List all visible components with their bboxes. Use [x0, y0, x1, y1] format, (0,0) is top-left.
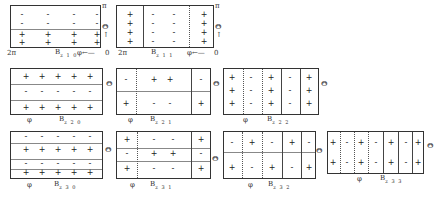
sign: -: [169, 136, 177, 144]
sign: -: [149, 38, 157, 46]
zero-label: 0: [214, 50, 218, 57]
phi-axis-label: φ: [27, 182, 32, 189]
panel-bz30: - - - - - + + + + + - - - - - + + + + +: [10, 131, 103, 179]
sign: +: [126, 20, 134, 28]
sign: +: [126, 11, 134, 19]
sign: +: [387, 159, 395, 167]
sign: +: [248, 139, 256, 147]
sign: +: [357, 159, 365, 167]
sign: -: [150, 100, 158, 108]
phi-axis-label: φ: [248, 182, 253, 189]
sign: +: [70, 73, 78, 81]
sign: -: [22, 133, 30, 141]
pi-label: π: [215, 3, 220, 10]
phi-axis-label: φ: [130, 182, 135, 189]
phi-axis-label: φ←—: [187, 50, 205, 57]
subscript: z 2 1: [155, 119, 172, 125]
sign: +: [197, 165, 205, 173]
sign: -: [38, 88, 46, 96]
sign: +: [54, 104, 62, 112]
sign: +: [70, 146, 78, 154]
sign: +: [86, 104, 94, 112]
sign: +: [166, 76, 174, 84]
subscript: z 3 0: [59, 184, 76, 190]
field-label: Bz 3 2: [268, 181, 290, 188]
sign: +: [22, 73, 30, 81]
sign: -: [70, 20, 78, 28]
sign: -: [197, 150, 205, 158]
sign: +: [200, 38, 208, 46]
nodal-line: [243, 69, 244, 114]
sign: -: [149, 11, 157, 19]
nodal-line: [11, 143, 102, 144]
sign: -: [122, 76, 130, 84]
phi-axis-label: φ: [128, 117, 133, 124]
sign: +: [267, 74, 275, 82]
theta-axis-label: Θ: [102, 23, 109, 30]
subscript: z 3 3: [385, 178, 402, 184]
sign: +: [123, 136, 131, 144]
two-pi-label: 2π: [118, 50, 127, 57]
sign: -: [54, 160, 62, 168]
panel-bz21: - + + - + - - +: [116, 68, 211, 115]
subscript: z 3 2: [273, 184, 290, 190]
sign: -: [150, 136, 158, 144]
sign: +: [305, 164, 313, 172]
sign: +: [228, 100, 236, 108]
nodal-line: [340, 132, 341, 173]
sign: +: [38, 73, 46, 81]
theta-axis-label: Θ: [427, 142, 434, 149]
field-label: Bz 3 0: [54, 181, 76, 188]
sign: -: [150, 165, 158, 173]
sign: +: [126, 29, 134, 37]
sign: +: [305, 87, 313, 95]
sign: -: [170, 29, 178, 37]
sign: -: [70, 133, 78, 141]
zero-label: 0: [105, 50, 109, 57]
theta-axis-label: Θ: [316, 147, 323, 154]
panel-bz22: + - + - + + - + - + + - + - +: [223, 68, 319, 115]
theta-axis-label: Θ: [105, 146, 112, 153]
nodal-line: [117, 91, 210, 92]
sign: -: [70, 11, 78, 19]
nodal-line: [412, 132, 413, 173]
sign: +: [123, 165, 131, 173]
sign: -: [86, 160, 94, 168]
sign: +: [305, 100, 313, 108]
phi-axis-label: φ←—: [77, 50, 95, 57]
sign: -: [170, 11, 178, 19]
field-label: Bz 2 0: [59, 116, 81, 123]
sign: -: [169, 165, 177, 173]
sign: -: [54, 88, 62, 96]
theta-axis-label: Θ: [321, 80, 328, 87]
sign: -: [402, 159, 410, 167]
theta-axis-label: Θ: [212, 155, 219, 162]
sign: -: [248, 164, 256, 172]
sign: -: [286, 87, 294, 95]
nodal-line: [281, 69, 282, 114]
nodal-line: [143, 6, 144, 47]
sign: +: [126, 38, 134, 46]
field-label: Bz 3 3: [380, 175, 402, 182]
phi-axis-label: φ: [357, 176, 362, 183]
sign: +: [200, 29, 208, 37]
nodal-line: [189, 6, 190, 47]
nodal-line: [398, 132, 399, 173]
panel-bz32: - + - + - + - + - +: [223, 131, 316, 179]
sign: +: [200, 20, 208, 28]
two-pi-label: 2π: [7, 50, 16, 57]
panel-bz33: + - + - + - + + - + - + - +: [327, 131, 424, 174]
sign: +: [38, 146, 46, 154]
sign: +: [70, 104, 78, 112]
sign: +: [197, 136, 205, 144]
sign: +: [22, 104, 30, 112]
sign: -: [288, 164, 296, 172]
sign: +: [414, 139, 422, 147]
theta-arrow-icon: ↑: [103, 32, 109, 39]
field-label: Bz 1 0: [55, 49, 77, 56]
sign: -: [166, 100, 174, 108]
sign: -: [93, 20, 101, 28]
sign: +: [22, 169, 30, 177]
sign: +: [387, 139, 395, 147]
sign: -: [22, 88, 30, 96]
